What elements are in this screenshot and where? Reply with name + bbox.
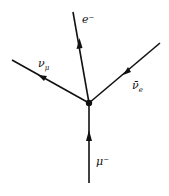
- electron-label: e⁻: [82, 14, 94, 25]
- muon-neutrino-arrow-icon: [38, 75, 47, 81]
- muon-neutrino-label: νμ: [38, 58, 49, 72]
- feynman-diagram: [0, 0, 169, 196]
- muon-neutrino-subscript: μ: [45, 64, 50, 72]
- muon-label: μ⁻: [96, 156, 109, 167]
- electron-antineutrino-subscript: e: [139, 86, 143, 94]
- muon-neutrino-symbol: ν: [38, 57, 45, 70]
- muon-arrow-icon: [86, 130, 92, 141]
- electron-antineutrino-symbol: ν̄: [132, 79, 139, 92]
- vertex-dot: [86, 100, 92, 106]
- muon-neutrino-line: [12, 60, 89, 103]
- electron-antineutrino-label: ν̄e: [132, 80, 143, 94]
